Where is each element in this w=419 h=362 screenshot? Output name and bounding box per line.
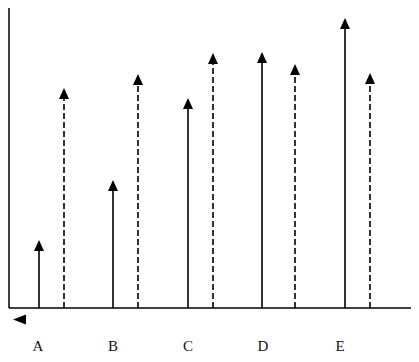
category-label-C: C — [173, 338, 203, 355]
arrowhead-icon — [365, 73, 375, 84]
arrowhead-icon — [183, 98, 193, 109]
arrowhead-icon — [34, 240, 44, 251]
category-label-D: D — [248, 338, 278, 355]
arrowhead-icon — [290, 64, 300, 75]
arrow-group — [34, 18, 375, 308]
arrowhead-icon — [257, 52, 267, 63]
category-label-A: A — [23, 338, 53, 355]
arrowhead-icon — [133, 74, 143, 85]
arrowhead-icon — [59, 88, 69, 99]
category-label-B: B — [98, 338, 128, 355]
left-arrow-icon — [13, 315, 26, 325]
arrowhead-icon — [340, 18, 350, 29]
arrow-chart — [0, 0, 419, 362]
category-label-E: E — [325, 338, 355, 355]
arrowhead-icon — [108, 180, 118, 191]
arrowhead-icon — [208, 53, 218, 64]
